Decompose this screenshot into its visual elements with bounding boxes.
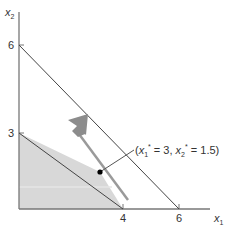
gradient-arrow-icon (68, 114, 88, 137)
label-x1-sub: 1 (144, 151, 148, 158)
y-tick-label-6: 6 (8, 40, 14, 51)
lp-diagram: x2 x1 6 3 4 6 (x1* = 3, x2* = 1.5) (0, 0, 232, 231)
x-tick-label-4: 4 (120, 213, 126, 224)
y-axis-label-sub: 2 (11, 13, 15, 20)
label-x1-value: = 3, (151, 144, 176, 156)
optimal-point (97, 169, 102, 174)
optimal-point-leader (100, 150, 134, 172)
label-x2-value: = 1.5) (188, 144, 220, 156)
x-axis-label: x1 (214, 213, 223, 226)
x-axis-label-sub: 1 (220, 219, 224, 226)
optimal-point-label: (x1* = 3, x2* = 1.5) (135, 143, 219, 158)
label-x2-sub: 2 (181, 151, 185, 158)
diagram-canvas (0, 0, 232, 231)
y-tick-label-3: 3 (8, 128, 14, 139)
x-tick-label-6: 6 (176, 213, 182, 224)
y-axis-label: x2 (5, 7, 14, 20)
